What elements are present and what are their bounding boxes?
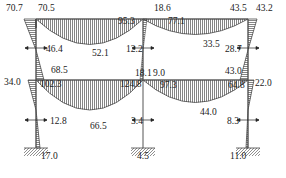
moment-value-label: 97.3 — [160, 81, 177, 91]
moment-value-label: 43.5 — [230, 4, 247, 14]
moment-value-label: 43.2 — [256, 4, 273, 14]
moment-value-label: 9.0 — [153, 69, 165, 79]
moment-value-label: 33.5 — [203, 40, 220, 50]
moment-value-label: 28.7 — [225, 45, 242, 55]
moment-value-label: 18.6 — [154, 4, 171, 14]
moment-value-label: 124.8 — [120, 80, 141, 90]
moment-value-label: 12.8 — [50, 117, 67, 127]
moment-value-label: 18.1 — [135, 69, 152, 79]
moment-value-label: 12.2 — [126, 45, 143, 55]
moment-value-label: 34.0 — [4, 78, 21, 88]
moment-value-label: 95.3 — [118, 17, 135, 27]
moment-value-label: 102.3 — [40, 80, 61, 90]
moment-value-label: 44.0 — [200, 108, 217, 118]
moment-value-label: 66.5 — [90, 122, 107, 132]
moment-value-label: 8.3 — [227, 117, 239, 127]
moment-value-label: 22.0 — [255, 79, 272, 89]
moment-value-label: 68.5 — [51, 66, 68, 76]
moment-value-label: 3.4 — [131, 117, 143, 127]
moment-value-label: 46.4 — [46, 45, 63, 55]
moment-value-label: 17.0 — [41, 152, 58, 162]
moment-value-label: 4.5 — [137, 152, 149, 162]
moment-value-label: 64.8 — [228, 81, 245, 91]
moment-value-label: 43.0 — [225, 67, 242, 77]
moment-value-label: 70.7 — [6, 4, 23, 14]
frame-moment-diagram: 70.770.595.318.677.143.543.246.452.112.2… — [0, 0, 286, 178]
moment-value-label: 70.5 — [38, 4, 55, 14]
moment-value-label: 77.1 — [168, 17, 185, 27]
moment-value-label: 11.0 — [230, 152, 246, 162]
moment-value-label: 52.1 — [92, 49, 109, 59]
